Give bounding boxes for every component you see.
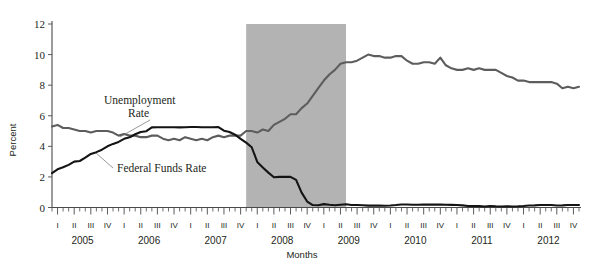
x-quarter-label: III <box>553 221 560 230</box>
y-tick-label: 0 <box>40 202 46 214</box>
x-quarter-label: II <box>471 221 475 230</box>
y-axis-title: Percent <box>7 123 18 156</box>
y-tick-label: 12 <box>34 18 45 30</box>
x-year-label: 2005 <box>71 235 94 246</box>
x-year-label: 2008 <box>271 235 294 246</box>
x-quarter-label: I <box>522 221 524 230</box>
x-year-labels-group: 20052006200720082009201020112012 <box>71 235 560 246</box>
x-quarter-label: III <box>487 221 494 230</box>
x-year-label: 2009 <box>338 235 361 246</box>
x-year-label: 2007 <box>205 235 228 246</box>
x-quarter-labels-group: IIIIIIIVIIIIIIIVIIIIIIIVIIIIIIIVIIIIIIIV… <box>56 221 577 230</box>
x-year-label: 2012 <box>537 235 560 246</box>
federal-funds-rate-label: Federal Funds Rate <box>117 162 206 174</box>
x-quarter-label: I <box>456 221 458 230</box>
x-year-label: 2006 <box>138 235 161 246</box>
x-quarter-label: II <box>338 221 342 230</box>
y-tick-label: 6 <box>40 110 46 122</box>
x-quarter-label: II <box>205 221 209 230</box>
unemployment-rate-label-line2: Rate <box>128 107 149 119</box>
x-tick-marks-group <box>52 208 579 215</box>
x-year-label: 2011 <box>471 235 493 246</box>
unemployment-rate-annotation: Unemployment Rate <box>104 94 176 137</box>
x-quarter-label: IV <box>570 221 578 230</box>
x-quarter-label: I <box>389 221 391 230</box>
y-tick-label: 2 <box>40 171 46 183</box>
x-quarter-label: I <box>123 221 125 230</box>
x-quarter-label: III <box>154 221 161 230</box>
unemployment-vs-federal-funds-rate-chart: 024681012 IIIIIIIVIIIIIIIVIIIIIIIVIIIIII… <box>0 0 591 280</box>
y-tick-label: 4 <box>40 140 46 152</box>
y-tick-label: 10 <box>34 49 46 61</box>
y-tick-labels-group: 024681012 <box>34 18 52 214</box>
x-quarter-label: I <box>190 221 192 230</box>
x-quarter-label: II <box>72 221 76 230</box>
x-quarter-label: I <box>256 221 258 230</box>
x-year-label: 2010 <box>404 235 427 246</box>
x-quarter-label: III <box>287 221 294 230</box>
unemployment-rate-label-line1: Unemployment <box>104 94 176 107</box>
x-quarter-label: III <box>420 221 427 230</box>
y-tick-label: 8 <box>40 79 46 91</box>
x-quarter-label: II <box>139 221 143 230</box>
x-quarter-label: IV <box>503 221 511 230</box>
x-quarter-label: IV <box>437 221 445 230</box>
x-quarter-label: IV <box>104 221 112 230</box>
x-quarter-label: I <box>323 221 325 230</box>
x-quarter-label: II <box>405 221 409 230</box>
federal-funds-rate-leader-line <box>96 153 113 168</box>
x-quarter-label: IV <box>370 221 378 230</box>
federal-funds-rate-annotation: Federal Funds Rate <box>96 153 206 174</box>
x-quarter-label: IV <box>303 221 311 230</box>
x-quarter-label: IV <box>170 221 178 230</box>
x-quarter-label: II <box>272 221 276 230</box>
x-quarter-label: II <box>538 221 542 230</box>
x-quarter-label: III <box>87 221 94 230</box>
x-axis-title: Months <box>286 249 317 260</box>
x-quarter-label: III <box>354 221 361 230</box>
x-quarter-label: III <box>221 221 228 230</box>
chart-container: 024681012 IIIIIIIVIIIIIIIVIIIIIIIVIIIIII… <box>0 0 591 280</box>
x-quarter-label: IV <box>237 221 245 230</box>
x-quarter-label: I <box>56 221 58 230</box>
